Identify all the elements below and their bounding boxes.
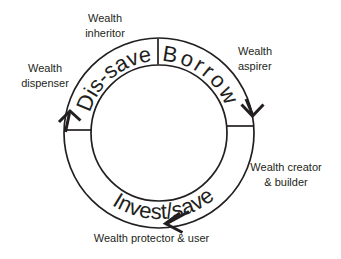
- label-wealth-protector-user: Wealth protector & user: [71, 231, 232, 246]
- label-wealth-inheritor: Wealth inheritor: [63, 11, 147, 41]
- label-wealth-aspirer-line2: aspirer: [238, 59, 308, 74]
- label-wealth-dispenser-line2: dispenser: [3, 76, 87, 91]
- label-wealth-aspirer: Wealth aspirer: [238, 44, 308, 74]
- wealth-cycle-diagram: Dis-save Borrow Invest/save Wealth inher…: [0, 0, 341, 259]
- clockwise-arrow-right-icon: [242, 99, 264, 116]
- label-wealth-creator-builder: Wealth creator & builder: [231, 160, 341, 190]
- label-wealth-protector-user-line1: Wealth protector & user: [71, 231, 232, 246]
- label-wealth-dispenser: Wealth dispenser: [3, 61, 87, 91]
- cycle-ring-graphic: Dis-save Borrow Invest/save: [0, 0, 341, 259]
- label-wealth-inheritor-line2: inheritor: [63, 26, 147, 41]
- label-wealth-creator-builder-line2: & builder: [231, 175, 341, 190]
- segment-label-borrow: Borrow: [161, 41, 245, 110]
- label-wealth-dispenser-line1: Wealth: [3, 61, 87, 76]
- label-wealth-creator-builder-line1: Wealth creator: [231, 160, 341, 175]
- segment-label-borrow-text: Borrow: [161, 41, 245, 110]
- label-wealth-inheritor-line1: Wealth: [63, 11, 147, 26]
- clockwise-arrow-left-icon: [59, 111, 81, 132]
- label-wealth-aspirer-line1: Wealth: [238, 44, 308, 59]
